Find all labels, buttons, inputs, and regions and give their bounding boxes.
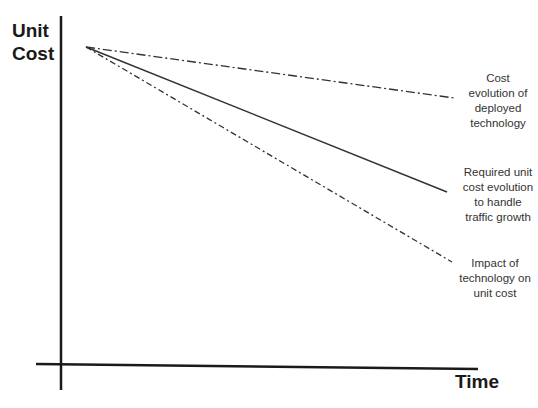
line-required-unit-cost: [86, 47, 447, 192]
y-axis-label: Unit Cost: [12, 19, 54, 65]
y-axis-label-line1: Unit: [12, 19, 54, 42]
annotation-deployed-technology: Cost evolution of deployed technology: [459, 71, 537, 131]
annotation-line: to handle: [455, 195, 538, 210]
x-axis: [36, 364, 478, 369]
line-technology-impact: [86, 47, 452, 262]
line-deployed-technology: [86, 47, 454, 98]
annotation-line: technology: [459, 116, 537, 131]
annotation-line: technology on: [455, 271, 535, 286]
annotation-line: cost evolution: [455, 180, 538, 195]
annotation-line: evolution of: [459, 86, 537, 101]
annotation-line: Required unit: [455, 165, 538, 180]
annotation-line: deployed: [459, 101, 537, 116]
annotation-technology-impact: Impact of technology on unit cost: [455, 256, 535, 301]
annotation-line: Cost: [459, 71, 537, 86]
annotation-line: traffic growth: [455, 210, 538, 225]
y-axis-label-line2: Cost: [12, 42, 54, 65]
annotation-line: unit cost: [455, 286, 535, 301]
x-axis-label: Time: [455, 370, 499, 393]
annotation-required-unit-cost: Required unit cost evolution to handle t…: [455, 165, 538, 225]
annotation-line: Impact of: [455, 256, 535, 271]
